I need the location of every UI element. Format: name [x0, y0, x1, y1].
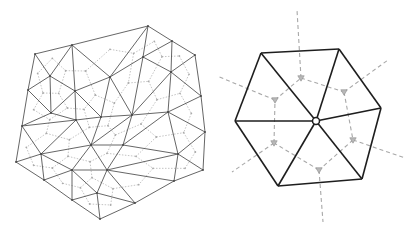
hexagon-boundary-edge	[362, 108, 381, 179]
centroid-triangle-icon	[341, 90, 347, 95]
centroid-triangle-icon	[316, 168, 322, 173]
dual-ray	[217, 76, 275, 100]
centroid-triangle-icon	[271, 141, 277, 146]
dual-cell-edge	[319, 140, 353, 170]
centroid-triangle-icon	[272, 98, 278, 103]
dual-cell-edge	[274, 143, 319, 170]
spoke-edge	[316, 49, 339, 121]
spoke-edge	[261, 53, 316, 121]
dual-cell-edge	[301, 78, 344, 92]
dual-cell-edge	[344, 92, 353, 140]
spoke-edge	[316, 108, 381, 121]
spoke-edge	[316, 121, 362, 179]
center-vertex-icon	[313, 118, 320, 125]
figure	[0, 0, 417, 233]
spoke-edge	[278, 121, 316, 186]
center-vertex-marker	[313, 118, 320, 125]
hexagon-boundary-edge	[261, 49, 339, 53]
dual-ray	[353, 140, 405, 158]
hexagon-vertex-fan-diagram	[0, 0, 417, 233]
dual-ray	[319, 170, 323, 222]
hexagon-boundary-edge	[235, 53, 261, 121]
dual-ray	[297, 10, 301, 78]
hexagon-edges	[235, 49, 381, 186]
hexagon-boundary-edge	[235, 121, 278, 186]
